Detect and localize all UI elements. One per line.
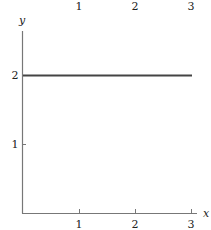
y-tick-label-1: 1 bbox=[12, 138, 19, 151]
top-tick-label-1: 1 bbox=[76, 0, 83, 13]
x-tick-label-2: 2 bbox=[132, 218, 139, 230]
top-tick-label-2: 2 bbox=[132, 0, 139, 13]
y-axis-label: y bbox=[18, 14, 26, 27]
top-tick-label-3: 3 bbox=[188, 0, 195, 13]
y-tick-label-2: 2 bbox=[12, 69, 19, 82]
x-tick-label-1: 1 bbox=[76, 218, 83, 230]
x-tick-label-3: 3 bbox=[188, 218, 195, 230]
x-axis-label: x bbox=[203, 207, 210, 220]
chart: 1 2 3 y 1 2 1 2 3 x bbox=[0, 0, 211, 230]
